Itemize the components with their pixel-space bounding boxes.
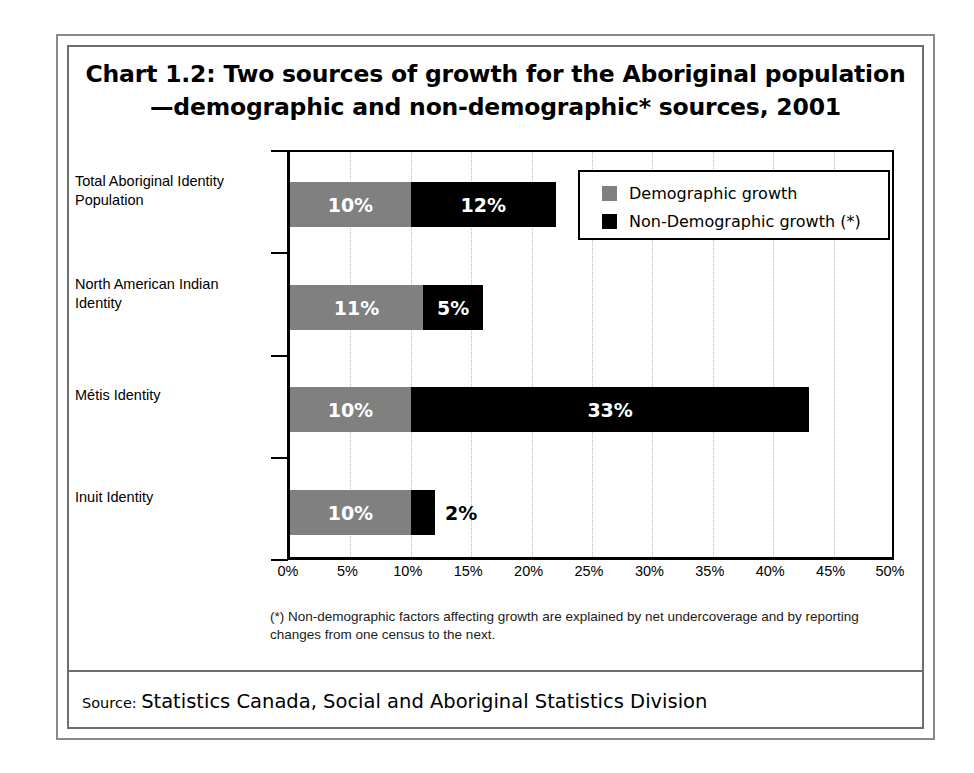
x-axis-tick-label: 20% <box>514 563 543 579</box>
bar-value-label: 2% <box>445 502 477 524</box>
category-label-line: Population <box>75 192 144 208</box>
bar-row-total-aboriginal: 10% 12% <box>290 182 556 227</box>
bar-value-label: 33% <box>587 399 632 421</box>
x-axis-tick-label: 25% <box>574 563 603 579</box>
bar-value-label: 10% <box>328 502 373 524</box>
y-axis-tick <box>271 355 288 357</box>
source-line: Source: Statistics Canada, Social and Ab… <box>82 690 707 713</box>
x-axis-tick-label: 45% <box>816 563 845 579</box>
footnote-line-1: (*) Non-demographic factors affecting gr… <box>270 609 802 624</box>
y-axis-tick <box>271 559 288 561</box>
x-axis-tick-label: 15% <box>454 563 483 579</box>
bar-value-label: 12% <box>461 194 506 216</box>
bar-row-north-american-indian: 11% 5% <box>290 285 483 330</box>
legend-item-demographic-growth: Demographic growth <box>602 180 888 206</box>
x-axis-tick-label: 35% <box>695 563 724 579</box>
bar-segment-non-demographic: 2% <box>411 490 435 535</box>
legend-swatch-icon <box>602 214 617 229</box>
category-label-inuit: Inuit Identity <box>75 488 270 507</box>
source-label: Source: <box>82 695 137 711</box>
bar-row-metis: 10% 33% <box>290 387 809 432</box>
category-label-total-aboriginal: Total Aboriginal Identity Population <box>75 172 270 210</box>
category-label-metis: Métis Identity <box>75 386 270 405</box>
legend-label: Demographic growth <box>629 184 797 203</box>
chart-page: Chart 1.2: Two sources of growth for the… <box>0 0 974 773</box>
y-axis-tick <box>271 252 288 254</box>
legend-item-non-demographic-growth: Non-Demographic growth (*) <box>602 208 888 234</box>
category-label-north-american-indian: North American Indian Identity <box>75 275 270 313</box>
source-text: Statistics Canada, Social and Aboriginal… <box>141 690 707 713</box>
bar-segment-demographic: 11% <box>290 285 423 330</box>
chart-title-line-1: Chart 1.2: Two sources of growth for the… <box>75 58 916 91</box>
bar-value-label: 10% <box>328 194 373 216</box>
bar-row-inuit: 10% 2% <box>290 490 435 535</box>
bar-value-label: 10% <box>328 399 373 421</box>
y-axis-tick <box>271 150 288 152</box>
y-axis-tick <box>271 457 288 459</box>
category-label-line: Identity <box>75 295 122 311</box>
x-axis-tick-label: 40% <box>756 563 785 579</box>
bar-value-label: 5% <box>437 297 469 319</box>
bar-segment-demographic: 10% <box>290 182 411 227</box>
bar-segment-demographic: 10% <box>290 490 411 535</box>
x-axis-tick-label: 5% <box>337 563 358 579</box>
legend-label: Non-Demographic growth (*) <box>629 212 861 231</box>
bar-segment-non-demographic: 5% <box>423 285 483 330</box>
chart-title: Chart 1.2: Two sources of growth for the… <box>75 58 916 124</box>
category-label-line: Métis Identity <box>75 387 160 403</box>
source-divider <box>69 670 922 672</box>
x-axis-tick-label: 0% <box>278 563 299 579</box>
legend-swatch-icon <box>602 186 617 201</box>
category-axis: Total Aboriginal Identity Population Nor… <box>75 150 280 560</box>
x-axis-tick-label: 10% <box>393 563 422 579</box>
x-axis-tick-label: 50% <box>875 563 904 579</box>
category-label-line: North American Indian <box>75 276 218 292</box>
bar-segment-non-demographic: 33% <box>411 387 810 432</box>
category-label-line: Total Aboriginal Identity <box>75 173 224 189</box>
footnote: (*) Non-demographic factors affecting gr… <box>270 608 895 644</box>
bar-value-label: 11% <box>334 297 379 319</box>
chart-title-line-2: —demographic and non-demographic* source… <box>75 91 916 124</box>
bar-segment-demographic: 10% <box>290 387 411 432</box>
bar-segment-non-demographic: 12% <box>411 182 556 227</box>
x-axis-labels: 0% 5% 10% 15% 20% 25% 30% 35% 40% 45% 50… <box>287 563 894 587</box>
category-label-line: Inuit Identity <box>75 489 153 505</box>
legend: Demographic growth Non-Demographic growt… <box>578 170 890 240</box>
x-axis-tick-label: 30% <box>635 563 664 579</box>
